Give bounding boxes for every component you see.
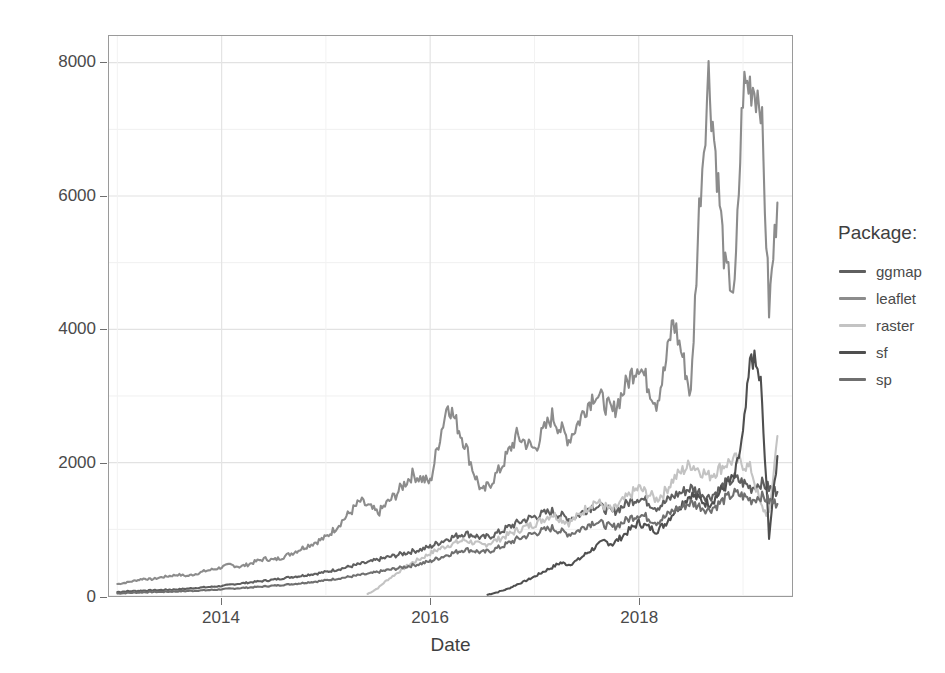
legend-item-label: ggmap [876,263,922,280]
chart-figure: 02000400060008000 201420162018 Downloads… [0,0,945,673]
legend-line-swatch-icon [838,371,867,389]
legend-item-label: sf [876,344,888,361]
legend-item-label: raster [876,317,914,334]
x-tick-mark [221,598,222,605]
x-tick-label: 2016 [411,608,449,628]
legend-item-label: leaflet [876,290,916,307]
legend: Package: ggmapleafletrastersfsp [838,222,945,393]
x-tick-mark [639,598,640,605]
legend-item-sf[interactable]: sf [838,339,945,366]
legend-item-raster[interactable]: raster [838,312,945,339]
legend-items: ggmapleafletrastersfsp [838,258,945,393]
legend-line-swatch-icon [838,263,867,281]
legend-line-swatch-icon [838,344,867,362]
x-axis: 201420162018 [0,0,945,673]
x-tick-label: 2018 [620,608,658,628]
x-tick-label: 2014 [202,608,240,628]
legend-title: Package: [838,222,945,244]
legend-item-leaflet[interactable]: leaflet [838,285,945,312]
legend-item-ggmap[interactable]: ggmap [838,258,945,285]
x-tick-mark [430,598,431,605]
legend-line-swatch-icon [838,290,867,308]
legend-item-label: sp [876,371,892,388]
x-axis-title: Date [108,634,793,656]
legend-line-swatch-icon [838,317,867,335]
legend-item-sp[interactable]: sp [838,366,945,393]
